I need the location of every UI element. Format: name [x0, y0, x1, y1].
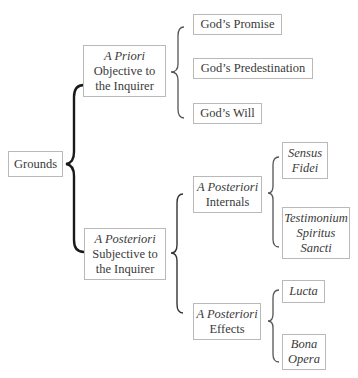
node-lucta: Lucta: [282, 280, 325, 303]
node-label-line2: Fidei: [292, 161, 318, 176]
node-gods-predestination: God’s Predestination: [193, 58, 313, 79]
node-label: God’s Will: [200, 106, 254, 121]
brace-internals: [268, 157, 279, 247]
brace-connectors: [0, 0, 358, 378]
node-effects: A Posteriori Effects: [193, 303, 261, 340]
node-a-priori: A Priori Objective to the Inquirer: [83, 45, 166, 97]
node-label: Internals: [206, 195, 250, 210]
node-gods-promise: God’s Promise: [193, 14, 282, 35]
node-label: Lucta: [289, 284, 317, 299]
node-label-line2: Opera: [288, 352, 320, 367]
brace-a-posteriori: [171, 194, 183, 313]
brace-grounds: [66, 85, 84, 252]
node-label-line2: the Inquirer: [96, 262, 155, 277]
node-a-posteriori: A Posteriori Subjective to the Inquirer: [84, 228, 166, 280]
node-label-line3: Sancti: [300, 241, 331, 256]
node-sensus-fidei: Sensus Fidei: [282, 142, 328, 179]
node-label: God’s Predestination: [201, 61, 306, 76]
brace-effects: [268, 290, 279, 362]
node-label: God’s Promise: [201, 17, 275, 32]
node-qualifier: A Posteriori: [94, 232, 155, 247]
node-label-line1: Objective to: [94, 64, 155, 79]
brace-a-priori: [171, 27, 184, 118]
node-label: Effects: [209, 322, 244, 337]
node-bona-opera: Bona Opera: [282, 334, 326, 370]
node-label-line1: Subjective to: [92, 247, 158, 262]
node-label: Grounds: [14, 157, 57, 172]
node-label-line2: Spiritus: [297, 226, 336, 241]
node-grounds: Grounds: [8, 151, 63, 177]
node-qualifier: A Posteriori: [196, 307, 257, 322]
node-testimonium: Testimonium Spiritus Sancti: [282, 207, 350, 259]
node-internals: A Posteriori Internals: [193, 176, 262, 213]
node-gods-will: God’s Will: [193, 103, 262, 124]
node-label-line2: the Inquirer: [95, 79, 154, 94]
node-label-line1: Sensus: [288, 146, 322, 161]
node-qualifier: A Priori: [104, 49, 145, 64]
node-label-line1: Bona: [291, 337, 317, 352]
node-label-line1: Testimonium: [284, 211, 347, 226]
node-qualifier: A Posteriori: [197, 180, 258, 195]
